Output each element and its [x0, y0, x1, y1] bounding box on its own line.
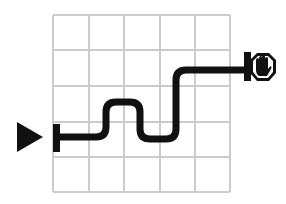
grid [53, 15, 230, 192]
stop-hand-icon [250, 53, 276, 81]
end-bar [244, 52, 251, 81]
play-triangle-icon [17, 122, 43, 152]
start-bar [53, 124, 60, 152]
route-path [59, 70, 246, 139]
path-diagram [0, 0, 286, 204]
